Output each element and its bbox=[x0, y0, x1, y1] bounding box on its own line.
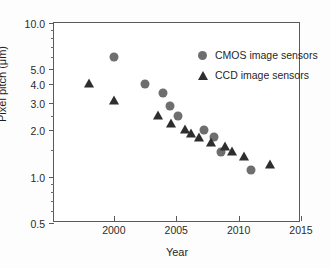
data-point bbox=[109, 96, 119, 105]
data-point bbox=[141, 80, 150, 89]
y-tick-3.0: 3.0 bbox=[49, 103, 54, 104]
y-tick-minor bbox=[51, 192, 54, 193]
y-tick-4.0: 4.0 bbox=[49, 84, 54, 85]
x-tick-2005 bbox=[176, 216, 177, 221]
x-tick-2010 bbox=[239, 216, 240, 221]
y-tick-10.0: 10.0 bbox=[49, 23, 54, 24]
y-tick-label: 5.0 bbox=[30, 65, 45, 76]
y-tick-2.0: 2.0 bbox=[49, 130, 54, 131]
circle-marker-icon bbox=[197, 50, 208, 61]
triangle-marker-icon bbox=[197, 70, 208, 81]
legend-item-label: CCD image sensors bbox=[215, 70, 309, 81]
plot-area: 0.51.02.03.04.05.010.0 2000200520102015 … bbox=[53, 22, 300, 222]
data-point bbox=[158, 89, 167, 98]
y-tick-label: 2.0 bbox=[30, 126, 45, 137]
y-tick-label: 4.0 bbox=[30, 80, 45, 91]
x-tick-label: 2015 bbox=[289, 225, 312, 236]
y-tick-minor bbox=[51, 184, 54, 185]
y-tick-minor bbox=[51, 47, 54, 48]
data-point bbox=[84, 79, 94, 88]
legend-item-ccd: CCD image sensors bbox=[197, 70, 318, 81]
x-tick-2015 bbox=[301, 216, 302, 221]
data-point bbox=[206, 138, 216, 147]
x-tick-label: 2000 bbox=[102, 225, 125, 236]
y-tick-label: 1.0 bbox=[30, 172, 45, 183]
y-tick-minor bbox=[51, 201, 54, 202]
y-tick-minor bbox=[51, 211, 54, 212]
y-tick-5.0: 5.0 bbox=[49, 69, 54, 70]
x-axis-title: Year bbox=[166, 246, 188, 258]
legend-item-label: CMOS image sensors bbox=[215, 50, 318, 61]
y-tick-minor bbox=[51, 38, 54, 39]
y-tick-label: 3.0 bbox=[30, 99, 45, 110]
data-point bbox=[153, 110, 163, 119]
data-point bbox=[239, 151, 249, 160]
x-tick-label: 2005 bbox=[165, 225, 188, 236]
y-tick-minor bbox=[51, 57, 54, 58]
y-axis-title: Pixel pitch (μm) bbox=[0, 46, 8, 122]
y-tick-minor bbox=[51, 30, 54, 31]
data-point bbox=[265, 159, 275, 168]
x-tick-2000 bbox=[114, 216, 115, 221]
data-point bbox=[166, 119, 176, 128]
chart-figure: Pixel pitch (μm) Year 0.51.02.03.04.05.0… bbox=[0, 0, 330, 268]
data-point bbox=[194, 133, 204, 142]
y-tick-minor bbox=[51, 116, 54, 117]
chart-legend: CMOS image sensorsCCD image sensors bbox=[197, 50, 318, 81]
x-tick-label: 2010 bbox=[227, 225, 250, 236]
y-tick-1.0: 1.0 bbox=[49, 177, 54, 178]
data-point bbox=[109, 53, 118, 62]
y-tick-0.5: 0.5 bbox=[49, 223, 54, 224]
y-tick-minor bbox=[51, 150, 54, 151]
legend-item-cmos: CMOS image sensors bbox=[197, 50, 318, 61]
y-tick-label: 0.5 bbox=[30, 219, 45, 230]
y-tick-label: 10.0 bbox=[25, 19, 45, 30]
data-point bbox=[166, 101, 175, 110]
data-point bbox=[227, 147, 237, 156]
data-point bbox=[247, 166, 256, 175]
